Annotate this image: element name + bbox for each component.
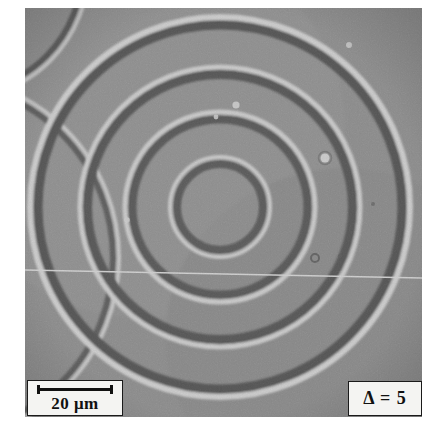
scale-bar-rule xyxy=(37,385,113,394)
scale-bar-cap-right xyxy=(110,385,113,394)
micrograph-image xyxy=(25,8,422,417)
scale-bar-label: 20 μm xyxy=(51,395,99,413)
scale-bar-line xyxy=(37,388,113,391)
micrograph-figure: 20 μm Δ = 5 xyxy=(0,0,446,438)
delta-annotation-label: Δ = 5 xyxy=(363,389,407,408)
vignette xyxy=(25,8,422,417)
delta-annotation: Δ = 5 xyxy=(348,381,422,416)
scale-bar: 20 μm xyxy=(27,380,123,416)
micrograph-canvas xyxy=(25,8,422,417)
